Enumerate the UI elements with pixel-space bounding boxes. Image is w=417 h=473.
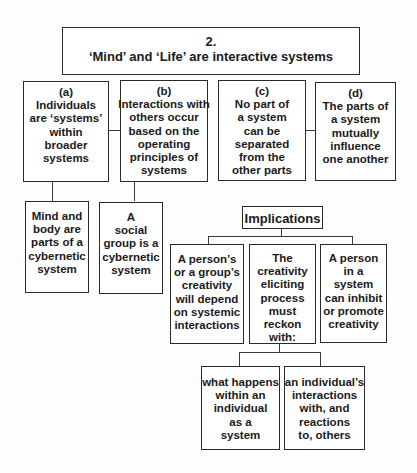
principle-b-line: principles of (130, 151, 198, 164)
connector-a-down (52, 182, 53, 201)
principle-c-line: separated (235, 138, 289, 151)
principle-c-line: from the (239, 151, 285, 164)
principle-a-box: (a) Individuals are ‘systems’ within bro… (23, 81, 109, 182)
reckon-line: within an (216, 389, 266, 402)
implication-line: must (269, 305, 296, 318)
principle-d-box: (d) The parts of a system mutually influ… (315, 82, 396, 181)
principle-a-line: systems (43, 152, 89, 165)
sub-principle-mind-body-box: Mind and body are parts of a cybernetic … (25, 201, 89, 293)
implications-heading: Implications (245, 212, 321, 225)
reckon-line: what happens (202, 376, 279, 389)
reckon-line: an individual’s (285, 376, 364, 389)
title-number: 2. (206, 34, 217, 49)
implication-line: creativity (257, 265, 308, 278)
implication-line: in a (344, 265, 364, 278)
connector-implications-branch (208, 236, 353, 237)
reckon-line: system (221, 429, 261, 442)
sub-principle-line: cybernetic (102, 251, 160, 264)
principle-a-line: are ‘systems’ (30, 112, 103, 125)
principle-b-line: others occur (129, 111, 199, 124)
reckon-line: interactions (292, 389, 357, 402)
implication-3-box: A person in a system can inhibit or prom… (320, 244, 387, 343)
principle-d-line: one another (323, 153, 389, 166)
title-box: 2. ‘Mind’ and ‘Life’ are interactive sys… (62, 27, 360, 75)
implication-line: creativity (328, 318, 379, 331)
connector-b-down (134, 182, 135, 201)
sub-principle-line: system (111, 264, 151, 277)
implication-line: The (272, 252, 292, 265)
reckon-interactions-box: an individual’s interactions with, and r… (284, 366, 365, 450)
sub-principle-line: system (37, 263, 77, 276)
sub-principle-line: cybernetic (28, 250, 86, 263)
implication-line: with: (269, 331, 296, 344)
title-text: ‘Mind’ and ‘Life’ are interactive system… (89, 49, 333, 64)
reckon-line: to, others (298, 429, 350, 442)
principle-b-line: Interactions with (118, 98, 209, 111)
connector-reckon-2 (320, 352, 321, 366)
connector-a-b (109, 130, 120, 131)
sub-principle-line: group is a (104, 237, 159, 250)
sub-principle-line: body are (33, 223, 81, 236)
principle-b-line: based on the (129, 125, 200, 138)
connector-implications-down (281, 229, 282, 236)
reckon-line: reactions (299, 416, 350, 429)
connector-reckon-branch (239, 352, 321, 353)
principle-a-line: broader (45, 139, 88, 152)
principle-c-line: a system (237, 111, 286, 124)
principle-b-box: (b) Interactions with others occur based… (120, 80, 208, 182)
principle-b-label: (b) (157, 85, 172, 98)
principle-c-box: (c) No part of a system can be separated… (218, 80, 306, 181)
principle-b-line: systems (141, 164, 187, 177)
implication-line: A person’s (178, 253, 237, 266)
reckon-line: individual (214, 402, 268, 415)
connector-reckon-1 (239, 352, 240, 366)
principle-c-label: (c) (255, 85, 269, 98)
principle-d-line: mutually (332, 127, 379, 140)
sub-principle-line: parts of a (31, 236, 83, 249)
sub-principle-social-group-box: A social group is a cybernetic system (99, 202, 163, 294)
implication-line: on systemic (174, 306, 240, 319)
principle-c-line: can be (244, 125, 280, 138)
principle-c-line: No part of (235, 98, 289, 111)
implication-line: process (260, 292, 304, 305)
sub-principle-line: A (127, 211, 135, 224)
connector-c-d (306, 130, 315, 131)
principle-c-line: other parts (232, 164, 292, 177)
implications-heading-box: Implications (242, 206, 323, 229)
implication-line: A person (329, 252, 378, 265)
implication-line: system (334, 278, 374, 291)
implication-line: will depend (176, 293, 239, 306)
principle-d-line: The parts of (323, 100, 389, 113)
principle-a-line: within (49, 126, 82, 139)
principle-d-line: a system (331, 113, 380, 126)
principle-b-line: operating (138, 138, 190, 151)
sub-principle-line: social (115, 224, 148, 237)
implication-2-box: The creativity eliciting process must re… (249, 244, 316, 344)
principle-a-line: Individuals (36, 99, 96, 112)
implication-1-box: A person’s or a group’s creativity will … (170, 244, 244, 344)
principle-d-line: influence (330, 140, 380, 153)
reckon-line: with, and (300, 402, 350, 415)
implication-line: can inhibit (325, 292, 383, 305)
implication-line: creativity (182, 279, 233, 292)
principle-d-label: (d) (348, 87, 363, 100)
implication-line: eliciting (261, 278, 304, 291)
reckon-line: as a (229, 416, 251, 429)
implication-line: interactions (174, 319, 239, 332)
sub-principle-line: Mind and (32, 210, 82, 223)
principle-a-label: (a) (59, 86, 73, 99)
implication-line: or promote (323, 305, 384, 318)
implication-line: reckon (264, 318, 302, 331)
reckon-within-individual-box: what happens within an individual as a s… (201, 366, 280, 450)
implication-line: or a group’s (174, 266, 240, 279)
